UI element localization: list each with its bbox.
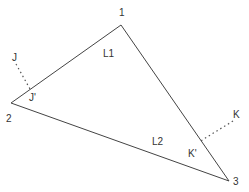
edge-label-L2: L2 — [152, 136, 164, 147]
edge-L2 — [11, 103, 229, 181]
point-label-K: K — [233, 109, 240, 120]
labels: 1 2 3 L1 L2 J J' K K' — [6, 7, 240, 187]
vertex-label-1: 1 — [119, 7, 125, 18]
edge-L1 — [11, 25, 121, 103]
triangle-diagram: 1 2 3 L1 L2 J J' K K' — [0, 0, 249, 192]
edge-label-L1: L1 — [103, 48, 115, 59]
projection-K — [199, 121, 233, 142]
point-label-K-prime: K' — [188, 148, 197, 159]
point-label-J-prime: J' — [29, 92, 36, 103]
edge-1-3 — [121, 25, 229, 181]
point-label-J: J — [12, 52, 17, 63]
projection-lines — [16, 64, 233, 142]
vertex-label-3: 3 — [233, 176, 239, 187]
vertex-label-2: 2 — [6, 113, 12, 124]
projection-J — [16, 64, 30, 89]
